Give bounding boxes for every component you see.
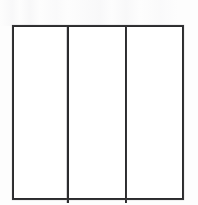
three-panel-frame-diagram [0,0,198,205]
panel-left [14,27,67,198]
panel-right [127,27,183,198]
panel-center [69,27,125,198]
drawing-canvas [0,0,198,205]
